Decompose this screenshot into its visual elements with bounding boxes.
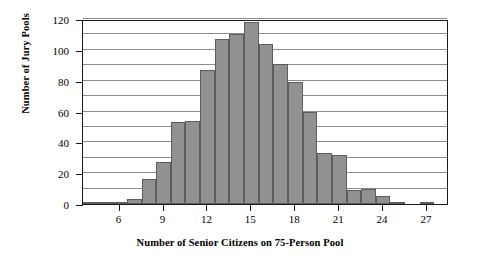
bar — [185, 121, 200, 204]
x-axis-tick — [250, 205, 251, 211]
y-axis-tick-label: 60 — [29, 108, 69, 119]
bar — [215, 39, 230, 204]
bar — [390, 202, 405, 204]
bar — [142, 179, 157, 204]
bar — [303, 112, 318, 205]
bar — [288, 82, 303, 204]
y-axis-tick-label: 120 — [29, 15, 69, 26]
x-axis-tick — [119, 205, 120, 211]
bar — [127, 199, 142, 204]
x-axis-tick-label: 6 — [104, 214, 134, 225]
x-axis-tick-label: 18 — [279, 214, 309, 225]
bar — [229, 34, 244, 204]
y-axis-tick — [76, 51, 83, 52]
x-axis-tick — [206, 205, 207, 211]
y-axis-tick-label: 20 — [29, 169, 69, 180]
x-axis-title: Number of Senior Citizens on 75-Person P… — [0, 237, 480, 248]
x-axis-tick-label: 15 — [235, 214, 265, 225]
bar — [376, 196, 391, 204]
y-axis-tick — [76, 20, 83, 21]
bars-layer — [83, 21, 447, 204]
bar — [361, 189, 376, 204]
x-axis-tick — [382, 205, 383, 211]
bar — [156, 162, 171, 204]
gridline — [83, 18, 447, 19]
y-axis-tick-label: 80 — [29, 77, 69, 88]
bar — [259, 44, 274, 204]
y-axis-tick-label: 0 — [29, 200, 69, 211]
plot-area — [82, 20, 448, 205]
bar — [98, 202, 113, 204]
bar — [171, 122, 186, 204]
x-axis-tick — [163, 205, 164, 211]
y-axis-tick — [76, 174, 83, 175]
bar — [83, 202, 98, 204]
bar — [332, 155, 347, 204]
x-axis-tick — [426, 205, 427, 211]
histogram-figure: 020406080100120 69121518212427 Number of… — [0, 0, 480, 259]
bar — [112, 202, 127, 204]
x-axis-tick-label: 12 — [191, 214, 221, 225]
y-axis-title: Number of Jury Pools — [20, 4, 31, 124]
x-axis-tick — [338, 205, 339, 211]
y-axis-tick — [76, 82, 83, 83]
y-axis-tick-label: 100 — [29, 46, 69, 57]
bar — [420, 202, 435, 204]
y-axis-tick — [76, 113, 83, 114]
y-axis-tick — [76, 205, 83, 206]
bar — [273, 64, 288, 204]
x-axis-tick-label: 27 — [411, 214, 441, 225]
x-axis-tick-label: 21 — [323, 214, 353, 225]
y-axis-tick-label: 40 — [29, 138, 69, 149]
bar — [317, 153, 332, 204]
bar — [244, 22, 259, 204]
x-axis-tick — [294, 205, 295, 211]
bar — [347, 190, 362, 204]
x-axis-tick-label: 9 — [148, 214, 178, 225]
x-axis-tick-label: 24 — [367, 214, 397, 225]
y-axis-tick — [76, 143, 83, 144]
bar — [200, 70, 215, 204]
